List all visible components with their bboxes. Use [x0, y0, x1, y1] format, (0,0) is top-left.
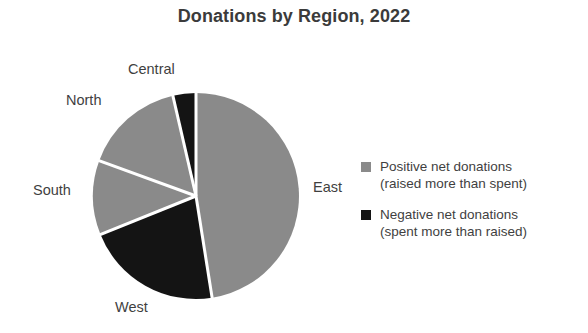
pie-plot-area: [92, 92, 300, 300]
pie-slice-label-north: North: [66, 92, 101, 108]
legend-label-positive: Positive net donations (raised more than…: [380, 158, 527, 192]
legend-swatch-icon-positive: [361, 162, 371, 172]
pie-chart-figure: Donations by Region, 2022 Central North …: [0, 0, 588, 333]
pie-slice-label-south: South: [33, 182, 71, 198]
pie-slice-label-east: East: [313, 179, 342, 195]
legend-label-positive-line2: (raised more than spent): [380, 175, 527, 192]
legend-label-positive-line1: Positive net donations: [380, 159, 512, 174]
pie-slice-label-central: Central: [128, 61, 175, 77]
pie-svg: [92, 92, 300, 300]
pie-slice-east: [196, 93, 299, 298]
chart-legend: Positive net donations (raised more than…: [361, 158, 576, 254]
legend-swatch-icon-negative: [361, 210, 371, 220]
chart-title: Donations by Region, 2022: [0, 6, 588, 27]
legend-entry-negative: Negative net donations (spent more than …: [361, 206, 576, 240]
legend-label-negative-line2: (spent more than raised): [380, 223, 527, 240]
pie-slice-label-west: West: [115, 299, 148, 315]
legend-entry-positive: Positive net donations (raised more than…: [361, 158, 576, 192]
legend-label-negative: Negative net donations (spent more than …: [380, 206, 527, 240]
legend-label-negative-line1: Negative net donations: [380, 207, 518, 222]
